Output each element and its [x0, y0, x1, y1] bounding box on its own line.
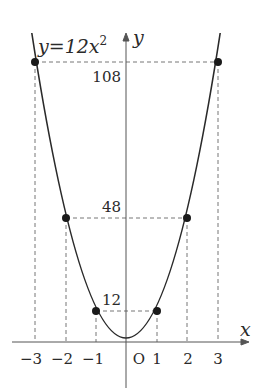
origin-label: O [133, 350, 145, 368]
y-axis-arrow-icon [123, 33, 129, 41]
x-tick-neg1: −1 [82, 350, 104, 368]
point-3-108 [214, 58, 222, 66]
point-neg3-108 [31, 58, 39, 66]
x-axis-label: x [240, 318, 251, 340]
axes [12, 33, 249, 388]
y-tick-48: 48 [102, 198, 121, 216]
y-axis-label: y [132, 26, 144, 48]
point-2-48 [183, 214, 191, 222]
point-neg1-12 [92, 307, 100, 315]
x-tick-1: 1 [152, 350, 162, 368]
x-tick-neg2: −2 [51, 350, 73, 368]
x-tick-neg3: −3 [20, 350, 42, 368]
point-neg2-48 [62, 214, 70, 222]
point-1-12 [153, 307, 161, 315]
parabola-chart: y=12x2 y x 108 48 12 −3 −2 −1 O 1 2 3 [0, 0, 263, 391]
x-tick-3: 3 [213, 350, 223, 368]
equation-label: y=12x2 [37, 34, 107, 57]
x-tick-2: 2 [183, 350, 193, 368]
y-tick-108: 108 [92, 68, 121, 86]
y-tick-12: 12 [102, 291, 121, 309]
